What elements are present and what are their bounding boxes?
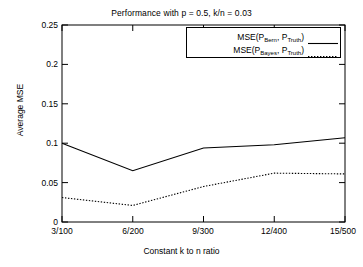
- series-line-bayes: [62, 173, 345, 205]
- series-line-bern: [62, 138, 345, 171]
- legend-label-bern: MSE(PBern, PTruth): [237, 32, 304, 42]
- legend-key-dotted: [308, 46, 338, 53]
- legend-key-solid: [308, 33, 338, 40]
- legend: MSE(PBern, PTruth) MSE(PBayes, PTruth): [186, 27, 341, 58]
- legend-label-bayes: MSE(PBayes, PTruth): [233, 45, 304, 55]
- legend-item-bayes: MSE(PBayes, PTruth): [187, 43, 342, 56]
- chart-figure: Performance with p = 0.5, k/n = 0.03 Ave…: [0, 0, 363, 267]
- legend-item-bern: MSE(PBern, PTruth): [187, 30, 342, 43]
